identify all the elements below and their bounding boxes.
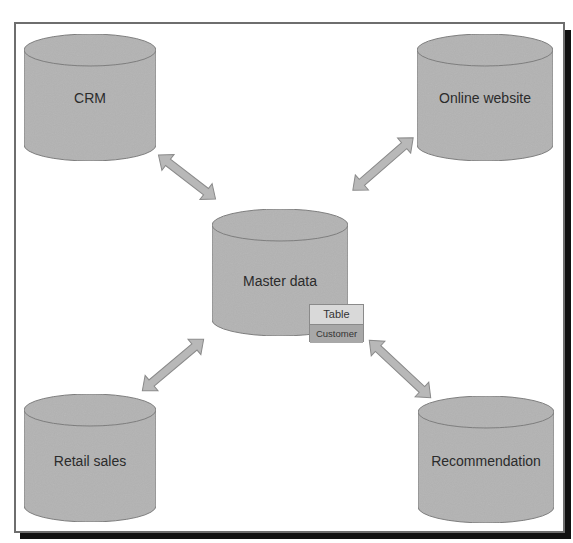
node-label-recommendation: Recommendation [431,453,541,469]
node-label-retail-sales: Retail sales [54,453,126,469]
node-label-crm: CRM [74,90,106,106]
arrow-crm-master [152,147,221,207]
customer-table: Table Customer [309,304,364,342]
arrow-retail-master [136,332,210,399]
arrow-recommend-master [362,333,437,405]
node-label-master-data: Master data [243,273,317,289]
table-header: Table [310,305,363,325]
node-label-online-website: Online website [439,90,531,106]
table-row-customer: Customer [310,325,363,343]
arrow-online-master [346,130,419,198]
